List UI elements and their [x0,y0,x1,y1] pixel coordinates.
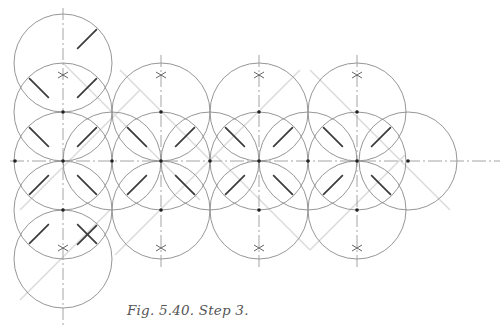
guide-line [215,155,310,250]
center-dot [61,159,65,163]
center-dot [355,110,359,114]
figure-caption: Fig. 5.40. Step 3. [127,302,249,318]
center-dot [110,159,114,163]
bold-segment [29,224,49,244]
center-dot [406,159,410,163]
center-dot [61,110,65,114]
center-dot [13,159,17,163]
bold-segment [29,127,49,147]
bold-segment [29,78,49,98]
guide-line [20,90,140,210]
center-dot [159,208,163,212]
bold-segment [175,127,195,147]
center-dot [355,208,359,212]
bold-segment [77,175,97,195]
bold-segment [225,175,245,195]
center-dot [257,208,261,212]
guide-line [310,70,450,210]
center-dot [159,159,163,163]
bold-segment [127,127,147,147]
center-dot [257,159,261,163]
bold-segment [323,127,343,147]
center-dot [208,159,212,163]
center-dot [159,110,163,114]
bold-segment [371,127,391,147]
center-axes [10,8,500,325]
construction-diagram [0,0,504,330]
center-dot [257,110,261,114]
center-dot [306,159,310,163]
bold-segment [225,127,245,147]
bold-segment [323,175,343,195]
bold-segment [77,29,97,49]
guide-line [310,155,405,250]
guide-line [120,70,210,160]
center-dot [355,159,359,163]
guide-line [210,70,300,160]
bold-segment [273,127,293,147]
bold-segment [127,175,147,195]
center-dot [61,208,65,212]
bold-segment [273,175,293,195]
